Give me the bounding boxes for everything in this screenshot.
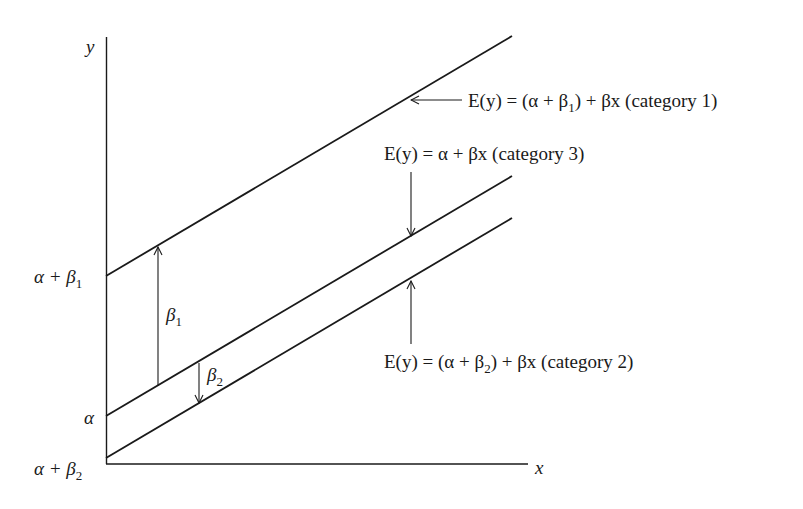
y-axis-label: y (84, 36, 95, 57)
regression-diagram: y x α + β1 α α + β2 β1 β2 E(y) = (α + β1… (0, 0, 803, 509)
category-2-equation: E(y) = (α + β2) + βx (category 2) (384, 351, 633, 376)
beta2-label: β2 (206, 364, 223, 389)
line-category-2 (106, 218, 512, 458)
category-1-equation: E(y) = (α + β1) + βx (category 1) (468, 90, 717, 115)
x-axis-label: x (534, 457, 544, 478)
intercept-label-alpha-plus-beta1: α + β1 (34, 266, 82, 291)
beta1-label: β1 (165, 304, 182, 329)
category-3-equation: E(y) = α + βx (category 3) (384, 143, 584, 165)
line-category-3 (106, 176, 512, 416)
intercept-label-alpha-plus-beta2: α + β2 (34, 458, 82, 483)
intercept-label-alpha: α (84, 407, 95, 428)
